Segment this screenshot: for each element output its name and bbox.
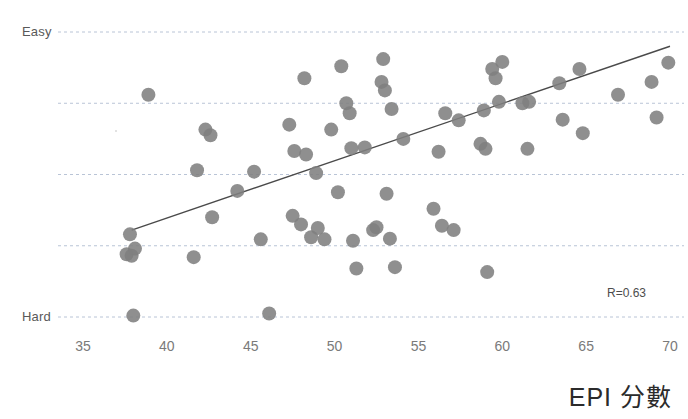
scatter-point	[309, 166, 323, 180]
scatter-point	[190, 163, 204, 177]
scatter-point	[452, 113, 466, 127]
x-tick-label-35: 35	[75, 338, 91, 354]
scatter-point	[294, 217, 308, 231]
y-axis-bottom-label: Hard	[22, 309, 51, 324]
scatter-point	[489, 71, 503, 85]
scatter-point	[522, 95, 536, 109]
scatter-point	[556, 113, 570, 127]
x-tick-label-40: 40	[159, 338, 175, 354]
scatter-point	[203, 128, 217, 142]
scatter-point	[477, 103, 491, 117]
scatter-point	[282, 118, 296, 132]
scatter-point	[123, 227, 137, 241]
scatter-point	[378, 83, 392, 97]
x-tick-label-70: 70	[662, 338, 678, 354]
x-axis-title: EPI 分數	[569, 377, 672, 413]
scatter-point	[385, 102, 399, 116]
scatter-point	[370, 220, 384, 234]
scatter-point	[128, 242, 142, 256]
scatter-point	[611, 88, 625, 102]
scatter-point	[388, 260, 402, 274]
scatter-point	[645, 75, 659, 89]
gridlines	[58, 32, 684, 317]
scatter-point	[262, 306, 276, 320]
scatter-point	[396, 132, 410, 146]
x-tick-label-60: 60	[494, 338, 510, 354]
scatter-point	[480, 265, 494, 279]
scatter-point	[650, 111, 664, 125]
scatter-point	[380, 187, 394, 201]
scatter-point	[438, 106, 452, 120]
scatter-point	[299, 148, 313, 162]
scatter-point	[376, 52, 390, 66]
correlation-annotation: R=0.63	[607, 286, 646, 300]
scatter-point	[349, 262, 363, 276]
scatter-point	[346, 234, 360, 248]
scatter-point	[187, 250, 201, 264]
scatter-point	[126, 309, 140, 323]
scatter-point	[495, 55, 509, 69]
data-points	[120, 52, 676, 323]
scatter-point	[661, 56, 675, 70]
scatter-point	[205, 210, 219, 224]
scatter-point	[447, 223, 461, 237]
scatter-point	[358, 140, 372, 154]
plot-canvas	[0, 0, 688, 419]
scatter-point	[230, 184, 244, 198]
scatter-point	[331, 185, 345, 199]
scatter-point	[297, 71, 311, 85]
scatter-point	[572, 62, 586, 76]
x-tick-label-45: 45	[243, 338, 259, 354]
y-axis-top-label: Easy	[22, 24, 52, 39]
scatter-point	[383, 232, 397, 246]
scatter-point	[576, 126, 590, 140]
scatter-point	[324, 123, 338, 137]
scatter-point	[343, 106, 357, 120]
scatter-point	[492, 95, 506, 109]
scatter-point	[479, 142, 493, 156]
scatter-point	[318, 232, 332, 246]
scatter-point	[254, 232, 268, 246]
x-tick-label-55: 55	[411, 338, 427, 354]
scatter-point	[247, 165, 261, 179]
x-tick-label-65: 65	[578, 338, 594, 354]
scatter-point	[334, 59, 348, 73]
x-tick-label-50: 50	[327, 338, 343, 354]
scatter-point	[427, 202, 441, 216]
scatter-point	[141, 88, 155, 102]
scatter-point	[520, 142, 534, 156]
scatter-point	[432, 145, 446, 159]
scatter-point	[552, 76, 566, 90]
scatter-point	[344, 141, 358, 155]
scatter-chart: Easy Hard 3540455055606570 R=0.63 EPI 分數	[0, 0, 688, 419]
